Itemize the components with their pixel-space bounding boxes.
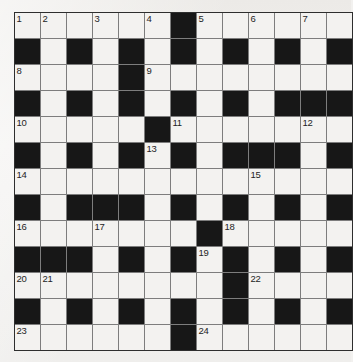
letter-cell[interactable] (171, 221, 196, 246)
letter-cell[interactable] (301, 65, 326, 90)
letter-cell[interactable] (197, 91, 222, 116)
letter-cell[interactable]: 19 (197, 247, 222, 272)
letter-cell[interactable] (41, 143, 66, 168)
letter-cell[interactable] (223, 169, 248, 194)
letter-cell[interactable] (301, 39, 326, 64)
letter-cell[interactable]: 10 (15, 117, 40, 142)
letter-cell[interactable] (275, 169, 300, 194)
letter-cell[interactable] (223, 325, 248, 350)
letter-cell[interactable]: 20 (15, 273, 40, 298)
letter-cell[interactable] (93, 143, 118, 168)
letter-cell[interactable]: 15 (249, 169, 274, 194)
letter-cell[interactable] (223, 65, 248, 90)
letter-cell[interactable] (275, 325, 300, 350)
letter-cell[interactable] (119, 221, 144, 246)
letter-cell[interactable] (301, 221, 326, 246)
letter-cell[interactable] (145, 39, 170, 64)
letter-cell[interactable] (249, 325, 274, 350)
letter-cell[interactable]: 16 (15, 221, 40, 246)
letter-cell[interactable] (301, 299, 326, 324)
letter-cell[interactable] (197, 39, 222, 64)
letter-cell[interactable]: 23 (15, 325, 40, 350)
letter-cell[interactable] (223, 13, 248, 38)
letter-cell[interactable] (301, 325, 326, 350)
letter-cell[interactable] (145, 299, 170, 324)
letter-cell[interactable] (93, 91, 118, 116)
letter-cell[interactable] (327, 65, 352, 90)
letter-cell[interactable] (275, 221, 300, 246)
letter-cell[interactable] (93, 65, 118, 90)
letter-cell[interactable]: 11 (171, 117, 196, 142)
letter-cell[interactable] (119, 13, 144, 38)
letter-cell[interactable] (145, 273, 170, 298)
letter-cell[interactable]: 1 (15, 13, 40, 38)
letter-cell[interactable] (327, 325, 352, 350)
letter-cell[interactable] (249, 39, 274, 64)
letter-cell[interactable] (93, 247, 118, 272)
letter-cell[interactable] (67, 221, 92, 246)
letter-cell[interactable] (41, 65, 66, 90)
letter-cell[interactable]: 12 (301, 117, 326, 142)
letter-cell[interactable] (119, 273, 144, 298)
letter-cell[interactable]: 13 (145, 143, 170, 168)
letter-cell[interactable] (275, 117, 300, 142)
letter-cell[interactable] (145, 91, 170, 116)
letter-cell[interactable] (41, 169, 66, 194)
letter-cell[interactable] (93, 169, 118, 194)
letter-cell[interactable] (197, 65, 222, 90)
letter-cell[interactable]: 6 (249, 13, 274, 38)
letter-cell[interactable] (249, 221, 274, 246)
letter-cell[interactable] (93, 273, 118, 298)
letter-cell[interactable]: 9 (145, 65, 170, 90)
letter-cell[interactable]: 14 (15, 169, 40, 194)
letter-cell[interactable] (301, 195, 326, 220)
letter-cell[interactable] (249, 299, 274, 324)
letter-cell[interactable] (301, 143, 326, 168)
letter-cell[interactable] (119, 325, 144, 350)
letter-cell[interactable]: 3 (93, 13, 118, 38)
letter-cell[interactable] (41, 299, 66, 324)
letter-cell[interactable] (145, 325, 170, 350)
letter-cell[interactable] (67, 169, 92, 194)
letter-cell[interactable] (41, 117, 66, 142)
letter-cell[interactable]: 18 (223, 221, 248, 246)
letter-cell[interactable] (249, 117, 274, 142)
letter-cell[interactable]: 5 (197, 13, 222, 38)
letter-cell[interactable]: 17 (93, 221, 118, 246)
letter-cell[interactable] (41, 221, 66, 246)
letter-cell[interactable] (41, 325, 66, 350)
letter-cell[interactable] (67, 117, 92, 142)
letter-cell[interactable] (197, 143, 222, 168)
letter-cell[interactable] (197, 299, 222, 324)
letter-cell[interactable] (171, 169, 196, 194)
letter-cell[interactable] (67, 273, 92, 298)
letter-cell[interactable] (41, 91, 66, 116)
letter-cell[interactable] (41, 195, 66, 220)
letter-cell[interactable] (171, 273, 196, 298)
letter-cell[interactable]: 24 (197, 325, 222, 350)
letter-cell[interactable] (93, 325, 118, 350)
letter-cell[interactable]: 2 (41, 13, 66, 38)
letter-cell[interactable]: 8 (15, 65, 40, 90)
letter-cell[interactable] (327, 169, 352, 194)
letter-cell[interactable] (249, 91, 274, 116)
letter-cell[interactable]: 4 (145, 13, 170, 38)
letter-cell[interactable] (145, 169, 170, 194)
letter-cell[interactable] (145, 221, 170, 246)
letter-cell[interactable] (171, 65, 196, 90)
letter-cell[interactable] (301, 247, 326, 272)
letter-cell[interactable] (67, 325, 92, 350)
letter-cell[interactable] (301, 273, 326, 298)
letter-cell[interactable] (223, 117, 248, 142)
letter-cell[interactable]: 7 (301, 13, 326, 38)
letter-cell[interactable] (145, 195, 170, 220)
letter-cell[interactable] (301, 169, 326, 194)
letter-cell[interactable] (197, 195, 222, 220)
letter-cell[interactable] (197, 273, 222, 298)
letter-cell[interactable] (327, 221, 352, 246)
letter-cell[interactable] (275, 273, 300, 298)
letter-cell[interactable] (249, 195, 274, 220)
letter-cell[interactable] (145, 247, 170, 272)
letter-cell[interactable] (41, 39, 66, 64)
letter-cell[interactable] (67, 13, 92, 38)
